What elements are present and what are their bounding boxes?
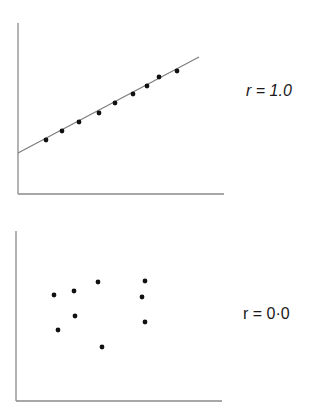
data-point xyxy=(56,328,61,333)
data-point xyxy=(143,279,148,284)
data-point xyxy=(143,320,148,325)
data-point xyxy=(140,295,145,300)
data-point xyxy=(72,289,77,294)
chart-zero-correlation: r = 0·0 xyxy=(0,208,313,416)
data-point xyxy=(96,280,101,285)
correlation-label-bottom: r = 0·0 xyxy=(243,305,290,323)
data-point xyxy=(52,293,57,298)
data-point xyxy=(73,314,78,319)
data-point xyxy=(100,345,105,350)
scatter-plot-bottom xyxy=(0,0,313,416)
